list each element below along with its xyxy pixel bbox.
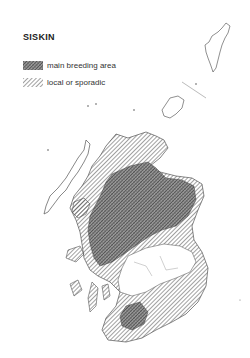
orkney-islands bbox=[162, 96, 184, 118]
islay-island bbox=[70, 280, 82, 296]
crosshatch-swatch-icon bbox=[23, 61, 43, 70]
map-divider-line bbox=[182, 82, 206, 98]
legend-label: main breeding area bbox=[47, 61, 116, 70]
hatch-swatch-icon bbox=[23, 78, 43, 87]
kintyre bbox=[88, 282, 98, 312]
distribution-map bbox=[0, 0, 250, 358]
shetland-islands bbox=[205, 23, 230, 72]
arran-island bbox=[102, 284, 110, 300]
legend-label: local or sporadic bbox=[47, 78, 105, 87]
legend-item-main: main breeding area bbox=[23, 58, 116, 72]
map-title: SISKIN bbox=[23, 32, 55, 42]
legend: main breeding area local or sporadic bbox=[23, 58, 116, 92]
legend-item-local: local or sporadic bbox=[23, 75, 116, 89]
mull-island bbox=[66, 246, 84, 262]
